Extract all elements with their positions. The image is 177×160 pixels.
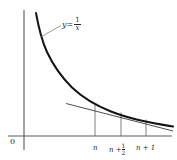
axis-label-n-plus-half: n +12 xyxy=(109,143,125,157)
curve-equation-label: y=1x xyxy=(62,17,81,33)
curve-label-numerator: 1 xyxy=(74,17,80,24)
function-plot-figure xyxy=(0,0,177,160)
curve-label-fraction: 1x xyxy=(74,17,80,33)
axis-label-n: n xyxy=(93,145,98,152)
axis-label-n-plus-one: n + 1 xyxy=(136,145,155,152)
origin-label: 0 xyxy=(10,138,15,146)
axis-label-half-fraction: 12 xyxy=(122,143,126,157)
axis-label-half-denominator: 2 xyxy=(122,149,126,156)
curve-label-equals: = xyxy=(67,20,74,29)
axis-label-n-plus-half-base: n + xyxy=(109,146,122,154)
axis-label-half-numerator: 1 xyxy=(122,143,126,149)
curve-label-denominator: x xyxy=(74,24,80,32)
